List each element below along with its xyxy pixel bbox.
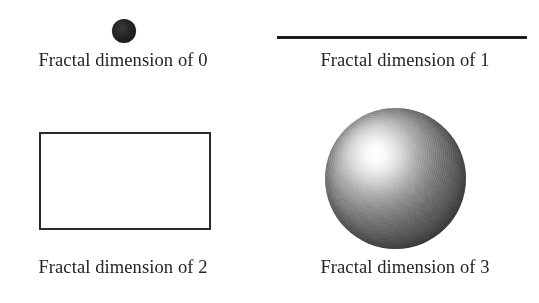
- panel-dimension-0: Fractal dimension of 0: [0, 0, 270, 110]
- sphere-grain-texture: [325, 108, 466, 249]
- line-segment-icon: [277, 36, 527, 39]
- panel-dimension-2: Fractal dimension of 2: [0, 110, 270, 303]
- caption-dimension-1: Fractal dimension of 1: [280, 50, 530, 70]
- panel-dimension-3: Fractal dimension of 3: [270, 110, 539, 303]
- rectangle-icon: [39, 132, 211, 230]
- caption-dimension-0: Fractal dimension of 0: [0, 50, 246, 70]
- sphere-icon: [325, 108, 466, 249]
- point-icon: [112, 19, 136, 43]
- fractal-dimension-figure: Fractal dimension of 0 Fractal dimension…: [0, 0, 539, 303]
- caption-dimension-2: Fractal dimension of 2: [0, 257, 246, 277]
- panel-dimension-1: Fractal dimension of 1: [270, 0, 539, 110]
- caption-dimension-3: Fractal dimension of 3: [280, 257, 530, 277]
